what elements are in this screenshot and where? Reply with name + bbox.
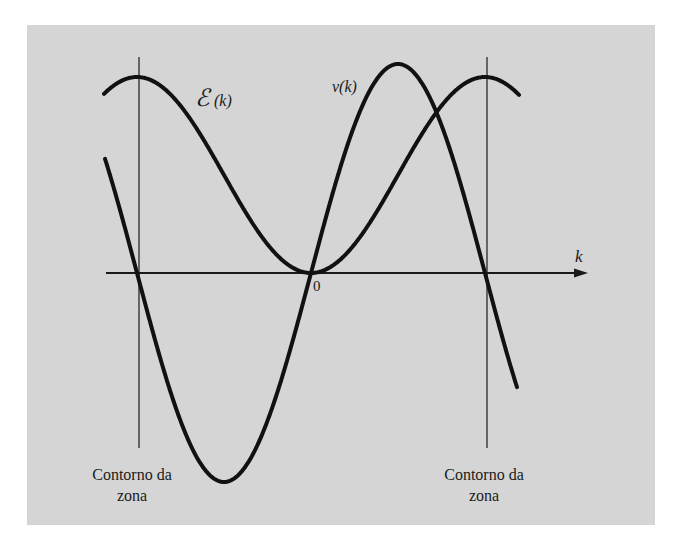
- k-axis-label: k: [575, 247, 583, 266]
- left-zone-label-line1: Contorno da: [92, 466, 172, 483]
- origin-label: 0: [313, 278, 321, 294]
- velocity-label: v(k): [332, 78, 357, 96]
- energy-label-arg: (k): [214, 92, 232, 110]
- left-zone-label-line2: zona: [117, 487, 147, 504]
- right-zone-label-line1: Contorno da: [444, 466, 524, 483]
- band-diagram: ℰ(k) v(k) k 0 Contorno da zona Contorno …: [0, 0, 680, 544]
- energy-label-symbol: ℰ: [195, 85, 212, 111]
- energy-label: ℰ(k): [195, 85, 232, 111]
- right-zone-label-line2: zona: [469, 487, 499, 504]
- k-axis-arrow-icon: [574, 269, 588, 278]
